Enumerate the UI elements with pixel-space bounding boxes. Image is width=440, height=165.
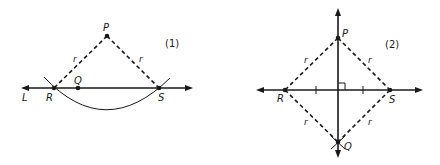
point-R xyxy=(52,86,57,91)
label-R: R xyxy=(277,93,284,104)
arrow-down-icon xyxy=(335,150,341,158)
point-S xyxy=(388,88,393,93)
segment-PS xyxy=(338,38,390,90)
arc-through-R-S xyxy=(44,77,170,110)
geometry-diagram: P Q R S L r r (1) xyxy=(0,0,440,165)
label-P: P xyxy=(103,22,110,33)
point-P xyxy=(105,34,110,39)
right-angle-marker-icon xyxy=(338,83,345,90)
arrow-right-icon xyxy=(415,87,423,93)
radius-PS xyxy=(107,36,159,88)
figure-2-label: (2) xyxy=(385,39,399,50)
label-r-PR: r xyxy=(304,55,309,65)
label-Q: Q xyxy=(344,141,352,152)
arrow-right-icon xyxy=(185,85,193,91)
point-R xyxy=(283,88,288,93)
figure-2: P R S Q r r r r (2) xyxy=(256,8,423,158)
point-S xyxy=(157,86,162,91)
label-L: L xyxy=(22,92,28,103)
label-S: S xyxy=(389,94,396,105)
segment-PR xyxy=(285,38,338,90)
label-R: R xyxy=(46,92,53,103)
label-r-right: r xyxy=(139,54,144,64)
label-r-SQ: r xyxy=(368,117,373,127)
segment-RQ xyxy=(285,90,338,142)
label-Q: Q xyxy=(74,75,82,86)
figure-1: P Q R S L r r (1) xyxy=(21,22,193,110)
label-S: S xyxy=(158,92,165,103)
point-Q xyxy=(76,86,81,91)
label-r-left: r xyxy=(73,54,78,64)
arrow-left-icon xyxy=(256,87,264,93)
point-P xyxy=(336,36,341,41)
segment-SQ xyxy=(338,90,390,142)
label-r-RQ: r xyxy=(304,117,309,127)
arrow-left-icon xyxy=(21,85,29,91)
point-Q xyxy=(336,140,341,145)
label-r-PS: r xyxy=(368,55,373,65)
arrow-up-icon xyxy=(335,8,341,16)
label-P: P xyxy=(342,28,349,39)
figure-1-label: (1) xyxy=(165,38,179,49)
